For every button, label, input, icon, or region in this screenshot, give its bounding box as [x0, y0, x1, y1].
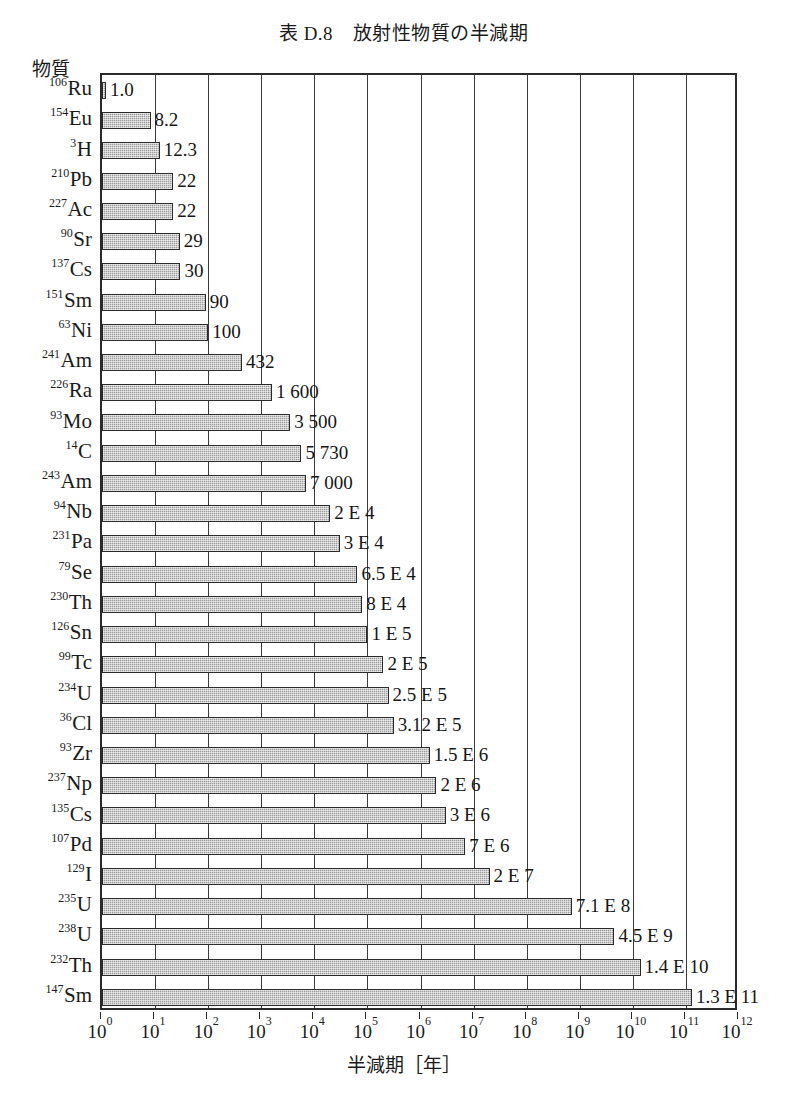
- bar-230Th[interactable]: [102, 596, 362, 613]
- isotope-symbol: Mo: [63, 409, 92, 434]
- bar-129I[interactable]: [102, 868, 490, 885]
- bar-value-label: 2 E 5: [387, 653, 427, 675]
- isotope-symbol: U: [77, 892, 92, 917]
- y-tick-79Se: 79Se: [59, 557, 93, 588]
- bar-231Pa[interactable]: [102, 535, 340, 552]
- bar-226Ra[interactable]: [102, 384, 272, 401]
- bar-row[interactable]: 1.4 E 10: [102, 952, 739, 983]
- isotope-mass-number: 232: [50, 952, 68, 967]
- bar-241Am[interactable]: [102, 354, 242, 371]
- bar-row[interactable]: 1.3 E 11: [102, 982, 739, 1013]
- y-tick-237Np: 237Np: [48, 768, 92, 799]
- bar-row[interactable]: 3 500: [102, 407, 739, 438]
- y-tick-241Am: 241Am: [42, 345, 92, 376]
- bar-row[interactable]: 100: [102, 317, 739, 348]
- bar-126Sn[interactable]: [102, 626, 367, 643]
- bar-row[interactable]: 2 E 7: [102, 861, 739, 892]
- bar-99Tc[interactable]: [102, 656, 383, 673]
- bar-94Nb[interactable]: [102, 505, 330, 522]
- bar-238U[interactable]: [102, 928, 614, 945]
- x-tick-base: 10: [669, 1021, 688, 1042]
- x-tick-base: 10: [512, 1021, 531, 1042]
- y-tick-63Ni: 63Ni: [59, 315, 93, 346]
- bar-row[interactable]: 2 E 4: [102, 498, 739, 529]
- bar-3H[interactable]: [102, 142, 160, 159]
- isotope-mass-number: 154: [50, 105, 68, 120]
- bar-237Np[interactable]: [102, 777, 436, 794]
- x-tick-exponent: 1: [160, 1014, 166, 1028]
- bar-154Eu[interactable]: [102, 112, 151, 129]
- bar-row[interactable]: 2.5 E 5: [102, 680, 739, 711]
- isotope-mass-number: 135: [51, 801, 69, 816]
- bar-row[interactable]: 7.1 E 8: [102, 891, 739, 922]
- bar-243Am[interactable]: [102, 475, 306, 492]
- bar-14C[interactable]: [102, 445, 301, 462]
- isotope-symbol: Cl: [72, 711, 92, 736]
- x-tick-label-1e2: 102: [194, 1020, 219, 1043]
- bar-107Pd[interactable]: [102, 838, 465, 855]
- bar-63Ni[interactable]: [102, 324, 208, 341]
- isotope-symbol: I: [85, 862, 92, 887]
- bar-147Sm[interactable]: [102, 989, 692, 1006]
- x-tick-mark-1e3: [259, 1012, 260, 1019]
- bar-36Cl[interactable]: [102, 717, 394, 734]
- y-tick-126Sn: 126Sn: [51, 617, 92, 648]
- bar-value-label: 432: [246, 351, 275, 373]
- y-tick-36Cl: 36Cl: [60, 708, 92, 739]
- x-tick-mark-1e0: [100, 1012, 101, 1019]
- isotope-mass-number: 79: [59, 559, 71, 574]
- bar-row[interactable]: 1.0: [102, 75, 739, 106]
- bar-row[interactable]: 4.5 E 9: [102, 921, 739, 952]
- bar-row[interactable]: 6.5 E 4: [102, 559, 739, 590]
- bar-row[interactable]: 3.12 E 5: [102, 710, 739, 741]
- bar-row[interactable]: 2 E 5: [102, 649, 739, 680]
- bar-value-label: 4.5 E 9: [618, 925, 672, 947]
- bar-row[interactable]: 7 E 6: [102, 831, 739, 862]
- isotope-symbol: Zr: [72, 741, 92, 766]
- bar-row[interactable]: 8 E 4: [102, 589, 739, 620]
- bar-227Ac[interactable]: [102, 203, 173, 220]
- bar-row[interactable]: 432: [102, 347, 739, 378]
- bar-row[interactable]: 12.3: [102, 135, 739, 166]
- bar-210Pb[interactable]: [102, 173, 173, 190]
- bar-137Cs[interactable]: [102, 263, 180, 280]
- isotope-mass-number: 93: [60, 740, 72, 755]
- bar-row[interactable]: 3 E 6: [102, 800, 739, 831]
- bar-235U[interactable]: [102, 898, 572, 915]
- x-tick-base: 10: [459, 1021, 478, 1042]
- bar-93Mo[interactable]: [102, 414, 290, 431]
- isotope-mass-number: 151: [45, 287, 63, 302]
- bar-value-label: 5 730: [305, 442, 348, 464]
- bar-row[interactable]: 1 E 5: [102, 619, 739, 650]
- bar-79Se[interactable]: [102, 566, 357, 583]
- bar-row[interactable]: 2 E 6: [102, 770, 739, 801]
- bar-row[interactable]: 90: [102, 287, 739, 318]
- bar-row[interactable]: 8.2: [102, 105, 739, 136]
- y-tick-151Sm: 151Sm: [45, 285, 92, 316]
- bar-row[interactable]: 29: [102, 226, 739, 257]
- bar-232Th[interactable]: [102, 959, 641, 976]
- bar-93Zr[interactable]: [102, 747, 430, 764]
- bar-234U[interactable]: [102, 687, 389, 704]
- isotope-symbol: Pb: [70, 167, 92, 192]
- bar-row[interactable]: 7 000: [102, 468, 739, 499]
- bar-row[interactable]: 30: [102, 256, 739, 287]
- bar-row[interactable]: 5 730: [102, 438, 739, 469]
- bar-106Ru[interactable]: [102, 82, 106, 99]
- x-tick-exponent: 12: [741, 1014, 753, 1028]
- bar-151Sm[interactable]: [102, 294, 206, 311]
- bar-row[interactable]: 22: [102, 196, 739, 227]
- bar-row[interactable]: 22: [102, 166, 739, 197]
- isotope-symbol: Th: [69, 953, 92, 978]
- isotope-symbol: Cs: [70, 802, 92, 827]
- bar-row[interactable]: 1.5 E 6: [102, 740, 739, 771]
- bar-value-label: 1.4 E 10: [645, 956, 709, 978]
- isotope-symbol: Nb: [66, 499, 92, 524]
- x-tick-exponent: 5: [372, 1014, 378, 1028]
- bar-row[interactable]: 3 E 4: [102, 528, 739, 559]
- bar-90Sr[interactable]: [102, 233, 180, 250]
- bar-row[interactable]: 1 600: [102, 377, 739, 408]
- y-tick-93Mo: 93Mo: [50, 405, 92, 436]
- x-axis-title: 半減期［年］: [0, 1050, 807, 1077]
- bar-135Cs[interactable]: [102, 807, 446, 824]
